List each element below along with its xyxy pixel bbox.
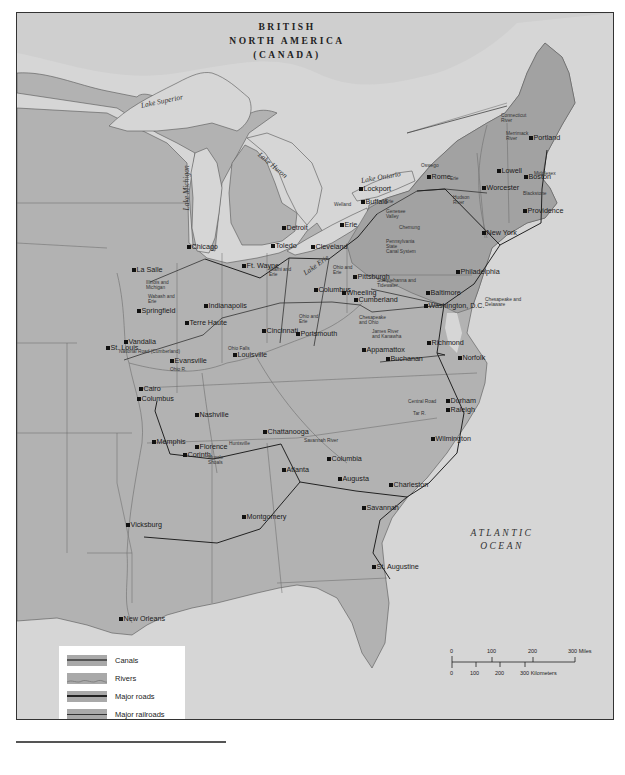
lake-michigan-label: Lake Michigan xyxy=(182,165,191,210)
city-marker: Cleveland xyxy=(311,243,347,250)
city-marker: Durham xyxy=(446,397,476,404)
city-label: Chattanooga xyxy=(268,427,309,436)
city-label: Louisville xyxy=(238,350,268,359)
city-marker: Appamattox xyxy=(362,346,405,353)
city-label: Evansville xyxy=(175,356,207,365)
city-marker: Chicago xyxy=(187,243,218,250)
city-label: Rome xyxy=(432,172,451,181)
city-dot-icon xyxy=(427,341,431,345)
city-marker: St. Augustine xyxy=(372,563,419,570)
city-marker: Raleigh xyxy=(446,406,475,413)
city-label: Baltimore xyxy=(431,288,461,297)
city-dot-icon xyxy=(282,468,286,472)
city-dot-icon xyxy=(262,329,266,333)
city-marker: Richmond xyxy=(427,339,464,346)
city-dot-icon xyxy=(195,413,199,417)
city-marker: Corinth xyxy=(183,451,211,458)
city-label: Toledo xyxy=(276,241,297,250)
city-label: Norfolk xyxy=(463,353,486,362)
route-label: Illinois and Michigan xyxy=(146,280,169,290)
city-marker: Louisville xyxy=(233,351,267,358)
city-dot-icon xyxy=(204,304,208,308)
route-label: Miami and Erie xyxy=(269,267,291,277)
city-dot-icon xyxy=(187,245,191,249)
city-dot-icon xyxy=(362,506,366,510)
city-marker: Wilmington xyxy=(431,435,471,442)
city-marker: Portsmouth xyxy=(296,330,337,337)
city-dot-icon xyxy=(195,445,199,449)
city-dot-icon xyxy=(389,483,393,487)
city-marker: Washington, D.C. xyxy=(424,302,485,309)
city-dot-icon xyxy=(137,397,141,401)
map-legend: Canals Rivers Major roads Major railroad… xyxy=(59,646,185,720)
city-label: Columbus xyxy=(142,394,174,403)
atlantic-ocean-label: ATLANTIC OCEAN xyxy=(457,527,547,554)
city-dot-icon xyxy=(152,440,156,444)
city-marker: Norfolk xyxy=(458,354,485,361)
route-label: Connecticut River xyxy=(501,113,526,123)
city-dot-icon xyxy=(446,408,450,412)
city-dot-icon xyxy=(362,348,366,352)
city-dot-icon xyxy=(497,169,501,173)
city-marker: Detroit xyxy=(282,224,308,231)
route-label: National Road (Cumberland) xyxy=(119,349,180,354)
route-label: Welland xyxy=(334,202,351,207)
city-dot-icon xyxy=(126,523,130,527)
city-marker: Nashville xyxy=(195,411,229,418)
city-dot-icon xyxy=(458,356,462,360)
city-dot-icon xyxy=(361,200,365,204)
city-label: Indianapolis xyxy=(209,301,247,310)
route-label: Chesapeake and Ohio xyxy=(359,315,386,325)
city-label: Philadelphia xyxy=(461,267,500,276)
city-dot-icon xyxy=(296,332,300,336)
legend-item-canals: Canals xyxy=(67,654,138,666)
route-label: Savannah River xyxy=(304,438,338,443)
route-label: Ohio R. xyxy=(170,367,186,372)
route-label: Middlesex xyxy=(534,171,556,176)
route-label: Hudson River xyxy=(453,195,470,205)
city-label: Wilmington xyxy=(436,434,472,443)
city-dot-icon xyxy=(482,231,486,235)
city-label: Portland xyxy=(534,133,561,142)
city-dot-icon xyxy=(311,245,315,249)
city-marker: New York xyxy=(482,229,517,236)
city-marker: Savannah xyxy=(362,504,399,511)
city-label: Portsmouth xyxy=(301,329,338,338)
city-label: Washington, D.C. xyxy=(429,301,485,310)
city-label: Savannah xyxy=(367,503,399,512)
city-marker: Lockport xyxy=(359,185,391,192)
city-marker: Buffalo xyxy=(361,198,388,205)
city-label: Detroit xyxy=(287,223,308,232)
city-label: Vicksburg xyxy=(131,520,162,529)
city-label: Lowell xyxy=(502,166,522,175)
route-label: Oswego xyxy=(421,163,439,168)
city-dot-icon xyxy=(482,186,486,190)
map-frame: BRITISH NORTH AMERICA (CANADA) ATLANTIC … xyxy=(16,12,614,720)
city-marker: Columbia xyxy=(327,455,362,462)
route-label: Erie xyxy=(385,199,394,204)
river-swatch-icon xyxy=(67,673,107,684)
city-label: Cairo xyxy=(144,384,161,393)
city-marker: Buchanan xyxy=(386,355,423,362)
city-dot-icon xyxy=(263,430,267,434)
city-dot-icon xyxy=(242,264,246,268)
city-dot-icon xyxy=(170,359,174,363)
route-label: Merrimack River xyxy=(506,131,528,141)
route-label: Susquehanna and Tidewater xyxy=(377,278,416,288)
legend-item-roads: Major roads xyxy=(67,690,155,702)
city-label: Atlanta xyxy=(287,465,309,474)
city-dot-icon xyxy=(524,175,528,179)
city-dot-icon xyxy=(523,209,527,213)
city-label: La Salle xyxy=(137,265,163,274)
city-marker: Cumberland xyxy=(354,296,398,303)
scale-bar: 0 100 200 300 Miles 0 100 200 300 Kilome… xyxy=(450,646,614,686)
city-label: Terre Haute xyxy=(190,318,228,327)
city-dot-icon xyxy=(183,453,187,457)
city-dot-icon xyxy=(282,226,286,230)
route-label: Chemung xyxy=(399,225,420,230)
canal-swatch-icon xyxy=(67,655,107,666)
route-label: Wabash and Erie xyxy=(148,294,175,304)
city-dot-icon xyxy=(424,304,428,308)
route-label: Muscle Shoals xyxy=(208,455,223,465)
city-dot-icon xyxy=(529,136,533,140)
